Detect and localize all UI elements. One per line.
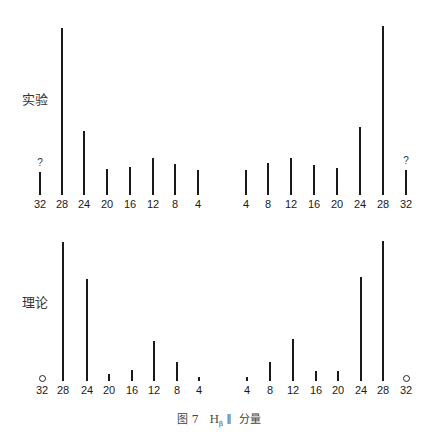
spectral-line-28 — [62, 242, 64, 381]
tick-label: 24 — [348, 198, 372, 210]
spectral-line-16 — [129, 167, 131, 195]
tick-label: 12 — [142, 384, 166, 396]
tick-label: 20 — [95, 198, 119, 210]
spectral-line-12 — [290, 158, 292, 195]
spectral-line-28 — [61, 28, 63, 195]
spectral-line-12 — [292, 339, 294, 381]
caption-subscript: β — [219, 420, 223, 428]
tick-label: 4 — [187, 384, 211, 396]
tick-label: 28 — [50, 198, 74, 210]
spectral-line-20 — [108, 374, 110, 381]
tick-label: 24 — [349, 384, 373, 396]
tick-label: 24 — [75, 384, 99, 396]
unknown-marker: ? — [34, 158, 46, 168]
spectral-line-24 — [83, 131, 85, 195]
tick-label: 8 — [165, 384, 189, 396]
tick-label: 8 — [258, 384, 282, 396]
tick-label: 28 — [371, 198, 395, 210]
tick-label: 16 — [302, 198, 326, 210]
caption-suffix: 分量 — [239, 413, 261, 426]
experiment-row-label: 实验 — [22, 92, 48, 108]
spectral-line-16 — [313, 165, 315, 195]
spectral-line-20 — [106, 169, 108, 195]
spectral-line-12 — [153, 341, 155, 381]
caption-prefix: 图 7 — [177, 413, 199, 426]
tick-label: 32 — [28, 198, 52, 210]
tick-label: 4 — [234, 198, 258, 210]
spectral-line-20 — [336, 168, 338, 195]
spectral-line-4 — [246, 377, 248, 381]
spectral-line-8 — [269, 362, 271, 381]
spectral-line-32 — [39, 172, 41, 195]
spectral-line-4 — [198, 377, 200, 381]
zero-intensity-circle-icon — [39, 375, 46, 382]
tick-label: 16 — [304, 384, 328, 396]
spectral-line-20 — [337, 371, 339, 381]
caption-symbol: H — [209, 413, 219, 426]
theory-row-label: 理论 — [22, 295, 48, 311]
spectral-line-24 — [359, 127, 361, 195]
tick-label: 12 — [279, 198, 303, 210]
spectral-line-4 — [197, 170, 199, 195]
spectral-line-16 — [131, 370, 133, 381]
spectral-line-24 — [360, 277, 362, 381]
tick-label: 20 — [97, 384, 121, 396]
zero-intensity-circle-icon — [403, 375, 410, 382]
spectral-line-28 — [382, 26, 384, 195]
spectral-line-8 — [174, 164, 176, 195]
spectral-line-8 — [176, 362, 178, 381]
spectral-line-28 — [382, 241, 384, 381]
caption-parallel: ∥ — [227, 413, 232, 426]
tick-label: 20 — [325, 198, 349, 210]
spectral-line-4 — [245, 170, 247, 195]
spectral-line-16 — [315, 371, 317, 381]
tick-label: 32 — [394, 198, 418, 210]
tick-label: 8 — [163, 198, 187, 210]
tick-label: 20 — [326, 384, 350, 396]
tick-label: 12 — [141, 198, 165, 210]
spectral-line-8 — [267, 163, 269, 195]
tick-label: 32 — [394, 384, 418, 396]
spectral-line-32 — [405, 170, 407, 195]
tick-label: 28 — [51, 384, 75, 396]
tick-label: 16 — [118, 198, 142, 210]
tick-label: 8 — [256, 198, 280, 210]
spectral-line-24 — [86, 279, 88, 381]
tick-label: 24 — [72, 198, 96, 210]
tick-label: 28 — [371, 384, 395, 396]
tick-label: 4 — [235, 384, 259, 396]
unknown-marker: ? — [400, 156, 412, 166]
tick-label: 16 — [120, 384, 144, 396]
figure-caption: 图 7 Hβ ∥ 分量 — [0, 410, 438, 428]
tick-label: 4 — [186, 198, 210, 210]
spectral-line-12 — [152, 158, 154, 195]
tick-label: 12 — [281, 384, 305, 396]
